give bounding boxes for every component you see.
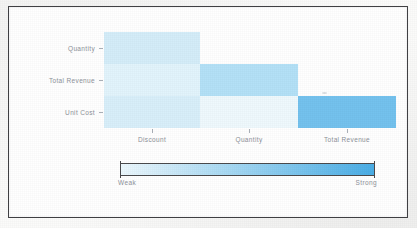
heatmap-cell[interactable] — [104, 64, 200, 96]
legend-label-strong: Strong — [355, 179, 377, 186]
colorbar-cap-left — [120, 161, 121, 178]
colorbar-cap-right — [374, 161, 375, 178]
heatmap-cell[interactable] — [200, 96, 298, 128]
legend-colorbar-group: Weak Strong — [120, 163, 375, 176]
legend-label-weak: Weak — [118, 179, 136, 186]
heatmap-cell[interactable] — [104, 32, 200, 64]
x-axis-label-total-revenue: Total Revenue — [307, 136, 387, 143]
heatmap-figure: Quantity Total Revenue Unit Cost Discoun… — [0, 0, 417, 228]
heatmap-cell[interactable] — [298, 96, 396, 128]
y-axis-tick — [99, 112, 103, 113]
heatmap-cell[interactable] — [200, 64, 298, 96]
x-axis-label-discount: Discount — [112, 136, 192, 143]
x-axis-tick — [347, 129, 348, 133]
x-axis-tick — [152, 129, 153, 133]
heatmap-cell[interactable] — [104, 96, 200, 128]
legend-colorbar[interactable] — [120, 163, 375, 176]
y-axis-label-total-revenue: Total Revenue — [20, 77, 95, 84]
y-axis-label-unit-cost: Unit Cost — [20, 109, 95, 116]
x-axis-label-quantity: Quantity — [209, 136, 289, 143]
y-axis-tick — [99, 80, 103, 81]
scan-artifact-speck — [322, 92, 327, 94]
y-axis-tick — [99, 48, 103, 49]
x-axis-tick — [249, 129, 250, 133]
y-axis-label-quantity: Quantity — [20, 45, 95, 52]
